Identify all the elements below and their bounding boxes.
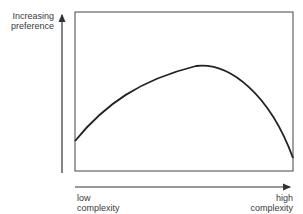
preference-curve bbox=[75, 66, 293, 158]
y-axis-label: Increasing preference bbox=[6, 11, 54, 31]
diagram-canvas bbox=[0, 0, 303, 214]
x-low-label: low complexity bbox=[77, 193, 120, 213]
y-label-line1: Increasing bbox=[6, 11, 54, 21]
x-high-label: high complexity bbox=[250, 193, 293, 213]
x-high-line1: high bbox=[250, 193, 293, 203]
x-low-line2: complexity bbox=[77, 203, 120, 213]
x-low-line1: low bbox=[77, 193, 120, 203]
x-high-line2: complexity bbox=[250, 203, 293, 213]
plot-frame bbox=[75, 12, 293, 171]
y-label-line2: preference bbox=[6, 21, 54, 31]
